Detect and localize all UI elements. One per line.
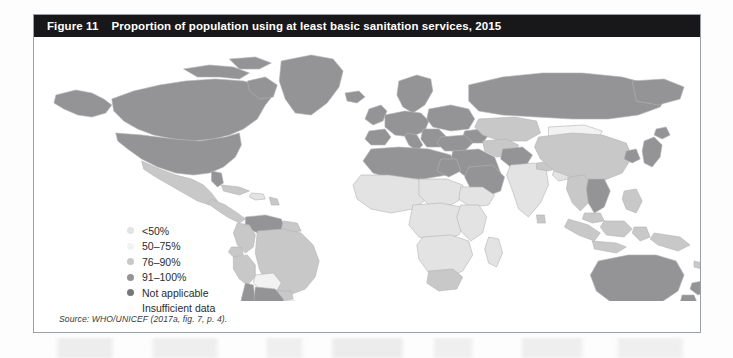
region-madagascar: [485, 237, 503, 267]
region-borneo: [600, 221, 632, 237]
legend-swatch-76-90: [127, 258, 134, 265]
legend-item-insufficient-data: Insufficient data: [127, 302, 215, 316]
legend-label-91-100: 91–100%: [142, 271, 186, 283]
legend-item-50-75: 50–75%: [127, 240, 215, 254]
region-india: [507, 163, 549, 217]
region-iceland: [345, 91, 365, 103]
figure-number: Figure 11: [47, 20, 98, 32]
region-iberia: [365, 129, 391, 145]
legend-item-91-100: 91–100%: [127, 271, 215, 285]
region-indonesia-java: [592, 241, 626, 253]
region-chile: [239, 283, 255, 301]
legend-label-not-applicable: Not applicable: [142, 287, 209, 299]
region-sri-lanka: [536, 215, 545, 223]
figure-container: Figure 11 Proportion of population using…: [33, 14, 701, 333]
region-central-america: [207, 199, 245, 223]
legend-label-lt50: <50%: [142, 225, 169, 237]
region-philippines: [622, 189, 642, 213]
region-sahel: [419, 179, 465, 205]
legend-label-insufficient-data: Insufficient data: [142, 302, 215, 314]
scan-artifact: [0, 338, 733, 358]
region-sulawesi: [632, 227, 650, 241]
region-east-africa: [457, 205, 487, 241]
legend-label-76-90: 76–90%: [142, 256, 181, 268]
region-china: [534, 133, 632, 181]
figure-title: Proportion of population using at least …: [111, 20, 501, 32]
region-japan: [642, 137, 662, 167]
legend-item-not-applicable: Not applicable: [127, 286, 215, 300]
region-japan-north: [654, 127, 670, 139]
legend-item-76-90: 76–90%: [127, 255, 215, 269]
region-caribbean-lesser: [269, 197, 279, 205]
legend-item-lt50: <50%: [127, 224, 215, 238]
region-malaysia: [582, 213, 604, 223]
region-eastern-europe: [427, 105, 475, 131]
region-greenland: [279, 55, 343, 115]
region-usa-florida: [211, 171, 223, 187]
region-russia-east: [632, 79, 684, 105]
region-alaska: [54, 90, 112, 117]
region-south-africa: [427, 269, 463, 291]
region-papua-new-guinea: [650, 233, 690, 251]
region-turkey: [437, 135, 473, 151]
figure-title-bar: Figure 11 Proportion of population using…: [34, 15, 700, 37]
legend-swatch-insufficient-data: [127, 305, 134, 312]
region-vietnam-laos-cambodia: [586, 179, 610, 213]
region-australia: [590, 255, 684, 301]
region-hispaniola: [249, 193, 265, 200]
map-legend: <50% 50–75% 76–90% 91–100% Not applicabl…: [127, 224, 215, 315]
region-new-zealand-n: [690, 281, 700, 295]
region-scandinavia: [397, 75, 433, 113]
legend-swatch-50-75: [127, 243, 134, 250]
legend-swatch-not-applicable: [127, 289, 134, 296]
region-peru: [233, 255, 255, 285]
legend-swatch-91-100: [127, 274, 134, 281]
region-ecuador: [228, 247, 243, 257]
figure-source: Source: WHO/UNICEF (2017a, fig. 7, p. 4)…: [59, 314, 227, 324]
world-map: <50% 50–75% 76–90% 91–100% Not applicabl…: [34, 37, 700, 334]
region-uk-ireland: [365, 105, 387, 125]
region-cuba: [221, 185, 249, 195]
legend-swatch-lt50: [127, 227, 134, 234]
region-canada-arctic-2: [229, 57, 271, 69]
region-new-zealand-s: [680, 295, 698, 301]
legend-label-50-75: 50–75%: [142, 240, 181, 252]
region-usa: [116, 133, 242, 175]
region-new-caledonia: [694, 261, 700, 269]
